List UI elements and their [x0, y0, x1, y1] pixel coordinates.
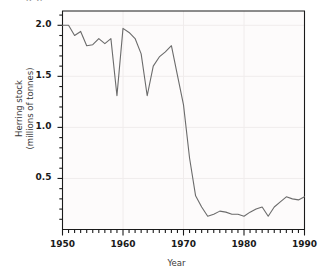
line-chart-plot — [0, 0, 331, 276]
x-tick-label: 1950 — [46, 239, 80, 249]
x-tick-label: 1970 — [167, 239, 201, 249]
y-axis-title: Herring stock (millions of tonnes) — [14, 49, 35, 169]
x-axis-title-text: Year — [146, 258, 186, 268]
herring-stock-figure: g p Herring stock (millions of tonnes) Y… — [0, 0, 331, 276]
y-tick-label: 2.0 — [26, 19, 52, 29]
y-axis-title-line1: Herring stock — [14, 49, 25, 169]
y-tick-label: 1.0 — [26, 121, 52, 131]
x-tick-label: 1980 — [227, 239, 261, 249]
x-tick-label: 1960 — [106, 239, 140, 249]
x-tick-label: 1990 — [288, 239, 322, 249]
y-tick-label: 0.5 — [26, 172, 52, 182]
x-axis-title: Year — [0, 258, 331, 268]
y-axis-title-line2: (millions of tonnes) — [24, 49, 35, 169]
y-axis-ticks — [58, 15, 63, 219]
y-tick-label: 1.5 — [26, 70, 52, 80]
x-axis-ticks — [63, 230, 305, 236]
